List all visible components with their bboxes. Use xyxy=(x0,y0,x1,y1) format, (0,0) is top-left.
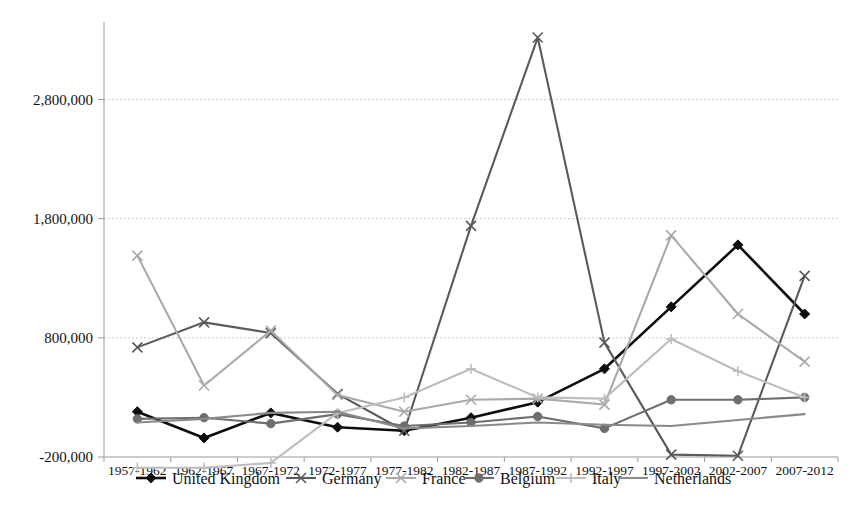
series-germany xyxy=(132,33,809,461)
data-point-marker xyxy=(333,422,343,432)
series-line xyxy=(137,38,804,456)
data-point-marker xyxy=(399,392,409,402)
legend-label: Italy xyxy=(592,470,621,488)
series-france xyxy=(132,230,809,416)
line-chart: 2,800,0001,800,000800,000-200,000 1957-1… xyxy=(0,0,851,506)
data-point-marker xyxy=(667,396,675,404)
data-point-marker xyxy=(800,357,810,367)
series-united-kingdom xyxy=(132,240,809,443)
data-point-marker xyxy=(800,271,810,281)
data-point-marker xyxy=(466,221,476,231)
data-point-marker xyxy=(534,412,542,420)
data-point-marker xyxy=(199,381,209,391)
legend-label: France xyxy=(422,470,466,487)
x-axis-label: 2007-2012 xyxy=(775,463,834,478)
data-point-marker xyxy=(800,392,810,402)
y-axis-label: -200,000 xyxy=(39,449,93,465)
data-point-marker xyxy=(199,433,209,443)
chart-canvas: 2,800,0001,800,000800,000-200,000 1957-1… xyxy=(0,0,851,506)
data-point-marker xyxy=(475,474,483,482)
y-axis-label: 800,000 xyxy=(44,330,93,346)
data-point-marker xyxy=(733,309,743,319)
legend-item-netherlands[interactable]: Netherlands xyxy=(618,470,731,487)
y-axis-label: 2,800,000 xyxy=(33,92,93,108)
series-italy xyxy=(132,334,809,473)
data-point-marker xyxy=(132,342,142,352)
data-point-marker xyxy=(666,230,676,240)
series-lines xyxy=(132,33,809,473)
series-line xyxy=(137,235,804,411)
legend-label: Germany xyxy=(322,470,382,488)
data-point-marker xyxy=(733,366,743,376)
legend-label: Belgium xyxy=(500,470,556,488)
data-point-marker xyxy=(466,364,476,374)
y-axis-tick-labels: 2,800,0001,800,000800,000-200,000 xyxy=(33,92,93,466)
data-point-marker xyxy=(267,419,275,427)
y-axis-label: 1,800,000 xyxy=(33,211,93,227)
data-point-marker xyxy=(734,396,742,404)
legend-item-germany[interactable]: Germany xyxy=(286,470,382,488)
legend-label: United Kingdom xyxy=(172,470,281,488)
legend-label: Netherlands xyxy=(654,470,731,487)
data-point-marker xyxy=(132,251,142,261)
